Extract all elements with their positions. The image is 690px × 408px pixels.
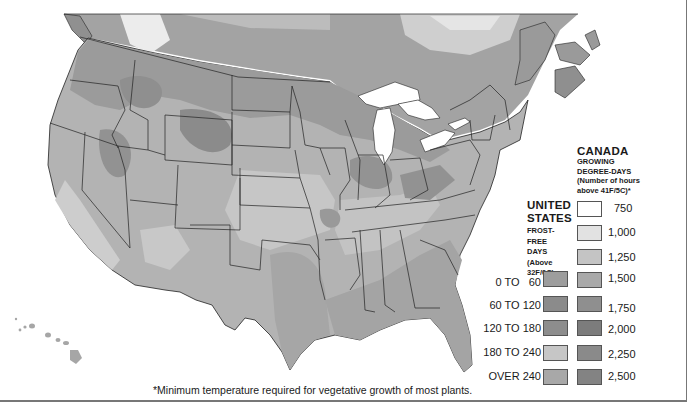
footnote: *Minimum temperature required for vegeta… (153, 384, 472, 396)
canada-swatch-750 (577, 201, 602, 217)
frame-border-right (686, 0, 687, 401)
us-label-60-120: 60 TO 120 (461, 299, 541, 311)
us-swatch-180-240 (543, 345, 568, 361)
us-label-0-60: 0 TO 60 (461, 276, 541, 288)
canada-swatch-1250 (577, 249, 602, 265)
us-swatch-over-240 (543, 369, 568, 385)
us-label-over-240: OVER 240 (461, 370, 541, 382)
frame-border-bottom (0, 400, 687, 402)
canada-label-750: 750 (614, 202, 632, 214)
us-label-180-240: 180 TO 240 (461, 346, 541, 358)
us-legend-subtitle-3: DAYS (527, 247, 577, 257)
hawaii (15, 318, 82, 364)
canada-legend-subtitle-3: (Number of hours (577, 176, 687, 186)
us-legend: UNITED STATES FROST- FREE DAYS (Above 32… (527, 199, 577, 278)
canada-swatch-1000 (577, 225, 602, 241)
canada-swatch-2250 (577, 345, 602, 361)
us-legend-title-2: STATES (527, 212, 577, 225)
canada-swatch-2000 (577, 320, 602, 336)
canada-label-2250: 2,250 (608, 348, 636, 360)
us-swatch-60-120 (543, 296, 568, 312)
us-legend-subtitle-2: FREE (527, 237, 577, 247)
us-legend-subtitle-1: FROST- (527, 226, 577, 236)
canada-swatch-1750 (577, 296, 602, 312)
canada-label-1250: 1,250 (608, 251, 636, 263)
canada-legend-title: CANADA (577, 145, 687, 157)
canada-legend: CANADA GROWING DEGREE-DAYS (Number of ho… (577, 145, 687, 195)
canada-label-2000: 2,000 (608, 323, 636, 335)
us-legend-title-1: UNITED (527, 199, 577, 212)
us-swatch-0-60 (543, 271, 568, 287)
us-label-120-180: 120 TO 180 (461, 322, 541, 334)
canada-label-2500: 2,500 (608, 370, 636, 382)
us-legend-subtitle-4: (Above (527, 258, 577, 268)
canada-label-1500: 1,500 (608, 272, 636, 284)
canada-label-1750: 1,750 (608, 302, 636, 314)
us-swatch-120-180 (543, 320, 568, 336)
canada-label-1000: 1,000 (608, 226, 636, 238)
canada-legend-subtitle-4: above 41F/5C)* (577, 186, 687, 196)
canada-swatch-2500 (577, 369, 602, 385)
canada-legend-subtitle-2: DEGREE-DAYS (577, 167, 687, 177)
canada-legend-subtitle-1: GROWING (577, 157, 687, 167)
canada-swatch-1500 (577, 272, 602, 288)
